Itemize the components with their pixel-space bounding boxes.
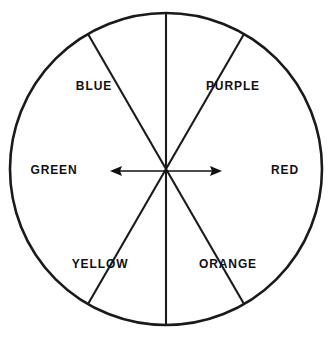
color-wheel-canvas: PURPLE RED ORANGE YELLOW GREEN BLUE [0,0,333,337]
sector-label-purple: PURPLE [206,79,260,93]
sector-label-yellow: YELLOW [72,257,129,271]
sector-label-green: GREEN [30,163,77,177]
color-wheel-diagram: PURPLE RED ORANGE YELLOW GREEN BLUE [0,0,333,337]
sector-label-blue: BLUE [76,79,112,93]
sector-label-orange: ORANGE [199,257,257,271]
sector-label-red: RED [271,163,299,177]
